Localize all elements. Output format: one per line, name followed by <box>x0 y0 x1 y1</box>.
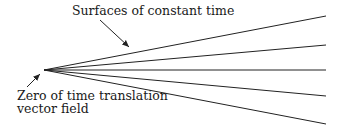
top-arrow <box>100 20 129 47</box>
surfaces-label: Surfaces of constant time <box>72 4 234 17</box>
zero-label-line2: vector field <box>17 102 89 115</box>
ray-2 <box>44 45 326 70</box>
bottom-arrow <box>27 74 40 87</box>
ray-1 <box>44 16 326 70</box>
